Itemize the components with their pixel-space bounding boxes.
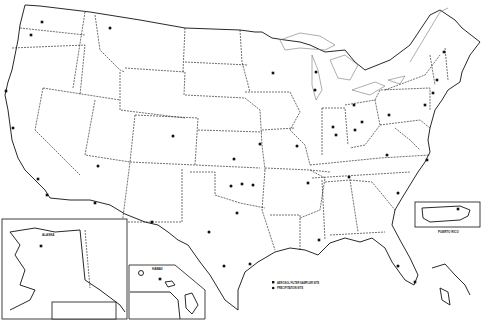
puerto-rico-label: PUERTO RICO: [438, 230, 459, 234]
precipitation-site-marker: [230, 185, 233, 188]
us-map: ALASKA HAWAII PUERTO RICO AEROSOL FILTER…: [0, 0, 489, 321]
puerto-rico-inset: PUERTO RICO: [415, 202, 480, 234]
aerosol-site-marker: [12, 127, 15, 130]
aerosol-site-marker: [46, 194, 49, 197]
hawaii-inset: HAWAII: [129, 265, 205, 319]
aerosol-site-marker: [307, 182, 310, 185]
aerosol-site-marker: [424, 104, 427, 107]
aerosol-site-marker: [332, 126, 335, 129]
precipitation-site-marker: [259, 143, 262, 146]
precipitation-site-marker: [97, 165, 100, 168]
aerosol-site-marker: [443, 51, 446, 54]
aerosol-site-marker: [37, 178, 40, 181]
precipitation-site-marker: [397, 192, 400, 195]
legend-square-icon: [272, 281, 274, 283]
aerosol-site-marker: [41, 21, 44, 24]
hawaii-label: HAWAII: [152, 267, 163, 271]
legend-label-precipitation: PRECIPITATION SITE: [277, 286, 303, 290]
aerosol-site-marker: [5, 90, 8, 93]
state-boundaries: [12, 12, 448, 250]
precipitation-site-marker: [314, 89, 317, 92]
legend-label-aerosol: AEROSOL FILTER SAMPLER SITE: [277, 281, 320, 285]
alaska-inset: ALASKA: [2, 219, 127, 319]
aerosol-site-marker: [388, 114, 391, 117]
aerosol-site-marker: [318, 239, 321, 242]
aerosol-site-marker: [241, 183, 244, 186]
aerosol-site-marker: [272, 72, 275, 75]
aerosol-site-marker: [151, 221, 154, 224]
precipitation-site-marker: [315, 71, 318, 74]
aerosol-site-marker: [436, 79, 439, 82]
aerosol-site-marker: [236, 212, 239, 215]
precipitation-site-marker: [172, 135, 175, 138]
aerosol-site-marker: [335, 134, 338, 137]
aerosol-site-marker: [361, 121, 364, 124]
aerosol-site-marker: [457, 208, 460, 211]
precipitation-site-marker: [233, 158, 236, 161]
aerosol-site-marker: [354, 129, 357, 132]
precipitation-site-marker: [386, 154, 389, 157]
legend-circle-icon: [272, 287, 275, 290]
caribbean-islands: [432, 264, 470, 305]
precipitation-site-marker: [223, 265, 226, 268]
alaska-label: ALASKA: [42, 233, 55, 237]
great-lakes: [280, 8, 448, 100]
aerosol-site-marker: [40, 245, 43, 248]
aerosol-site-marker: [159, 278, 162, 281]
precipitation-site-marker: [348, 176, 351, 179]
aerosol-site-marker: [432, 92, 435, 95]
aerosol-site-marker: [353, 104, 356, 107]
aerosol-site-marker: [426, 159, 429, 162]
precipitation-site-marker: [296, 145, 299, 148]
aerosol-site-marker: [94, 202, 97, 205]
precipitation-site-marker: [208, 231, 211, 234]
aerosol-site-marker: [30, 34, 33, 37]
aerosol-site-marker: [249, 263, 252, 266]
precipitation-site-marker: [397, 265, 400, 268]
aerosol-site-marker: [414, 281, 417, 284]
legend: AEROSOL FILTER SAMPLER SITE PRECIPITATIO…: [272, 281, 320, 291]
precipitation-site-marker: [252, 184, 255, 187]
precipitation-site-marker: [109, 27, 112, 30]
